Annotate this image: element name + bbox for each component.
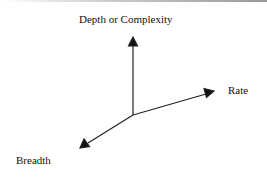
rate-axis-line <box>133 94 206 115</box>
depth-arrowhead-icon <box>129 37 138 46</box>
depth-label: Depth or Complexity <box>79 13 173 25</box>
axes-drawing <box>0 0 267 178</box>
diagram-canvas: Depth or Complexity Rate Breadth <box>0 0 267 178</box>
rate-label: Rate <box>228 84 248 96</box>
rate-arrowhead-icon <box>204 89 214 98</box>
breadth-arrowhead-icon <box>80 139 90 148</box>
breadth-label: Breadth <box>16 154 51 166</box>
breadth-axis-line <box>88 115 133 143</box>
